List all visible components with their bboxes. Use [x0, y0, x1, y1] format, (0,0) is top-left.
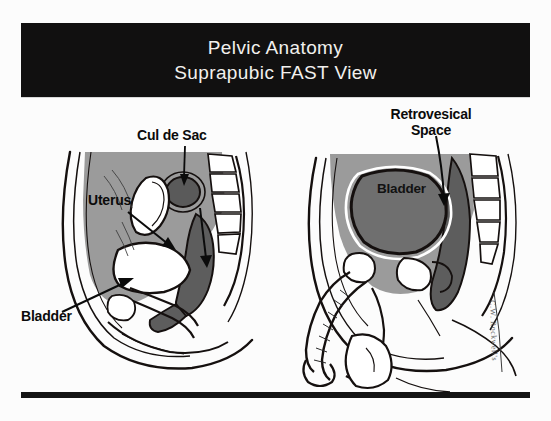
label-retrovesical-space: Retrovesical Space: [383, 106, 479, 138]
label-bladder-right: Bladder: [377, 181, 426, 197]
label-uterus: Uterus: [88, 192, 131, 208]
female-pelvis-figure: [63, 152, 252, 369]
label-bladder-left: Bladder: [21, 308, 72, 324]
label-cul-de-sac: Cul de Sac: [137, 127, 207, 143]
label-retrovesical-line-2: Space: [383, 122, 479, 138]
title-line-2: Suprapubic FAST View: [174, 60, 377, 85]
slide-canvas: Pelvic Anatomy Suprapubic FAST View: [0, 0, 551, 421]
bottom-divider: [21, 392, 530, 398]
title-line-1: Pelvic Anatomy: [208, 35, 344, 60]
label-retrovesical-line-1: Retrovesical: [383, 106, 479, 122]
artist-signature: C.W. Rockwell's: [488, 300, 499, 361]
left-figure-leaders: [62, 146, 212, 312]
title-banner: Pelvic Anatomy Suprapubic FAST View: [21, 23, 530, 97]
right-figure-leaders: [436, 136, 450, 206]
